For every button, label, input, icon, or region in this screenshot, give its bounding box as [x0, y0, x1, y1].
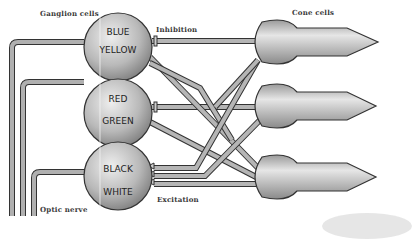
page-shadow: [322, 213, 412, 239]
optic-nerve-label: Optic nerve: [40, 205, 88, 214]
connection-fibers: [150, 41, 262, 184]
cone-cell-middle: [255, 84, 376, 128]
ganglion-cells-label: Ganglion cells: [40, 9, 99, 18]
ganglion-2-bottom: GREEN: [88, 116, 148, 126]
cone-cells-label: Cone cells: [292, 8, 334, 17]
inhibition-label: Inhibition: [156, 25, 197, 34]
cone-cell-top: [255, 20, 378, 64]
optic-nerve-fibers: [12, 42, 84, 216]
excitation-label: Excitation: [157, 195, 199, 204]
ganglion-2-top: RED: [88, 94, 148, 104]
ganglion-1-bottom: YELLOW: [88, 45, 148, 55]
ganglion-cell-red-green: [84, 79, 152, 147]
cone-cell-bottom: [255, 155, 376, 199]
ganglion-3-top: BLACK: [88, 164, 148, 174]
ganglion-cell-black-white: [84, 142, 152, 210]
ganglion-1-top: BLUE: [88, 27, 148, 37]
ganglion-3-bottom: WHITE: [88, 187, 148, 197]
